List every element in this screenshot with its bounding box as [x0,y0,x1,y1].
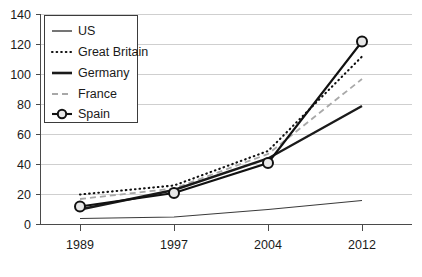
line-chart: 140 120 100 80 60 40 20 0 1989 1997 2004… [0,0,422,277]
x-tick-label-2012: 2012 [348,238,376,252]
y-tick-label-120: 120 [10,38,31,52]
legend-marker-spain [58,110,66,118]
x-tick-label-1989: 1989 [66,238,94,252]
series-line-us [80,201,362,219]
x-axis: 1989 1997 2004 2012 [41,225,412,253]
data-point-spain-1989 [75,202,85,212]
y-tick-label-80: 80 [17,98,31,112]
y-tick-label-0: 0 [24,218,31,232]
y-tick-label-60: 60 [17,128,31,142]
y-tick-label-20: 20 [17,188,31,202]
chart-canvas: 140 120 100 80 60 40 20 0 1989 1997 2004… [0,0,422,277]
y-tick-label-100: 100 [10,68,31,82]
legend-label-spain: Spain [78,107,110,121]
x-tick-label-2004: 2004 [254,238,282,252]
legend-label-germany: Germany [78,66,130,80]
data-point-spain-2004 [263,158,273,168]
y-tick-label-140: 140 [10,8,31,22]
chart-legend: US Great Britain Germany France Spain [45,16,149,123]
legend-label-us: US [78,24,95,38]
data-point-spain-1997 [169,188,179,198]
x-tick-label-1997: 1997 [160,238,188,252]
legend-label-great-britain: Great Britain [78,45,148,59]
legend-label-france: France [78,87,117,101]
y-tick-label-40: 40 [17,158,31,172]
y-axis: 140 120 100 80 60 40 20 0 [10,8,40,232]
data-point-spain-2012 [357,37,367,47]
